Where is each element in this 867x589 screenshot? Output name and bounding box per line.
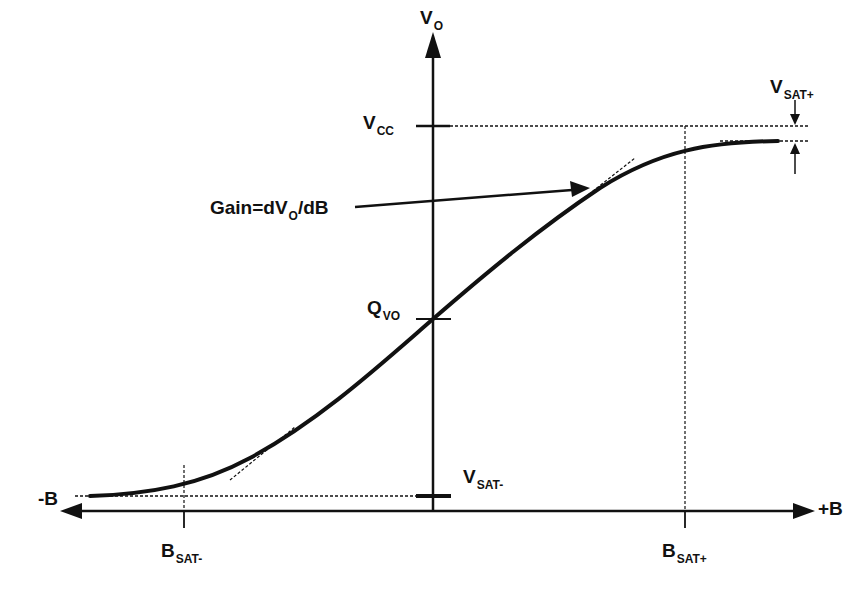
- gain-label: Gain=dVO/dB: [210, 198, 329, 217]
- transfer-curve-diagram: [0, 0, 867, 589]
- gain-pointer: [355, 181, 590, 207]
- vsat-minus-label: VSAT-: [463, 467, 503, 486]
- down-arrow-icon: [790, 114, 800, 125]
- bsat-plus-label: BSAT+: [662, 541, 707, 560]
- up-arrow-icon: [425, 32, 441, 58]
- horizontal-axis: [60, 503, 815, 519]
- bsat-minus-label: BSAT-: [161, 541, 202, 560]
- positive-b-label: +B: [818, 499, 843, 518]
- up-small-arrow-icon: [790, 143, 800, 154]
- vsat-plus-label: VSAT+: [770, 77, 814, 96]
- vsat-plus-indicator: [790, 100, 800, 174]
- vertical-axis: [425, 32, 441, 511]
- vcc-label: VCC: [363, 113, 394, 132]
- right-arrow-icon: [793, 503, 815, 519]
- negative-b-label: -B: [38, 489, 58, 508]
- vo-axis-label: VO: [420, 8, 443, 27]
- qvo-label: QVO: [367, 298, 400, 317]
- left-arrow-icon: [60, 503, 82, 519]
